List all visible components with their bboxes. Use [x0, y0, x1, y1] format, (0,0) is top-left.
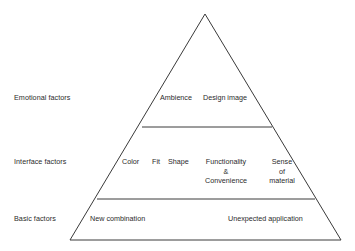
pyramid-item-functionality-line-1: Functionality	[198, 157, 254, 167]
pyramid-item-sense-line-3: material	[262, 176, 302, 186]
pyramid-item-functionality-convenience: Functionality & Convenience	[198, 157, 254, 186]
pyramid-item-functionality-line-2: &	[198, 167, 254, 177]
tier-label-interface-factors: Interface factors	[14, 157, 66, 166]
pyramid-item-color: Color	[122, 157, 139, 166]
tier-label-basic-factors: Basic factors	[14, 214, 56, 223]
pyramid-item-sense-line-1: Sense	[262, 157, 302, 167]
pyramid-item-sense-line-2: of	[262, 167, 302, 177]
pyramid-diagram: Emotional factors Interface factors Basi…	[0, 0, 355, 251]
pyramid-item-fit: Fit	[152, 157, 160, 166]
pyramid-item-sense-of-material: Sense of material	[262, 157, 302, 186]
pyramid-item-functionality-line-3: Convenience	[198, 176, 254, 186]
tier-label-emotional-factors: Emotional factors	[14, 93, 70, 102]
pyramid-item-shape: Shape	[168, 157, 189, 166]
pyramid-item-design-image: Design image	[203, 93, 247, 102]
pyramid-item-new-combination: New combination	[90, 214, 145, 223]
pyramid-item-ambience: Ambience	[160, 93, 192, 102]
pyramid-item-unexpected-application: Unexpected application	[228, 214, 303, 223]
